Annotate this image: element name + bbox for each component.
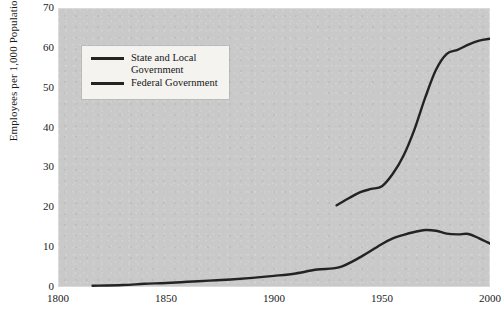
chart-container: Employees per 1,000 Population 010203040… bbox=[0, 0, 502, 310]
x-tick-1950: 1950 bbox=[359, 293, 405, 304]
x-tick-2000: 2000 bbox=[467, 293, 502, 304]
y-tick-0: 0 bbox=[30, 281, 54, 292]
line-state-and-local-government bbox=[337, 39, 490, 206]
legend-label-federal: Federal Government bbox=[131, 77, 218, 89]
y-tick-60: 60 bbox=[30, 42, 54, 53]
legend-item-state-and-local: State and Local Government bbox=[91, 52, 196, 75]
y-axis-tick-labels: 010203040506070 bbox=[28, 0, 54, 310]
y-tick-30: 30 bbox=[30, 161, 54, 172]
y-tick-50: 50 bbox=[30, 82, 54, 93]
x-tick-1800: 1800 bbox=[35, 293, 81, 304]
y-tick-20: 20 bbox=[30, 201, 54, 212]
x-tick-1900: 1900 bbox=[251, 293, 297, 304]
y-axis-title: Employees per 1,000 Population bbox=[7, 0, 23, 163]
legend-swatch-state-and-local bbox=[91, 57, 124, 60]
x-tick-1850: 1850 bbox=[143, 293, 189, 304]
legend-item-federal: Federal Government bbox=[91, 77, 218, 89]
legend-label-state-and-local: State and Local Government bbox=[131, 52, 196, 75]
line-federal-government bbox=[93, 230, 490, 286]
y-tick-10: 10 bbox=[30, 241, 54, 252]
legend-swatch-federal bbox=[91, 82, 124, 85]
y-tick-70: 70 bbox=[30, 2, 54, 13]
y-tick-40: 40 bbox=[30, 122, 54, 133]
chart-legend: State and Local Government Federal Gover… bbox=[82, 46, 229, 99]
